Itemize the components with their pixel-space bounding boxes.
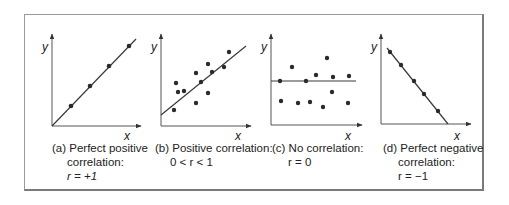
data-point [296,101,300,105]
data-point [279,99,283,103]
panel-d: y x [370,34,471,143]
data-point [194,101,198,105]
data-point [399,63,403,67]
data-point [206,62,210,66]
data-point [172,108,176,112]
caption-title: (a) Perfect positive [52,141,148,155]
caption-title: (c) No correlation: [272,141,363,155]
data-point [69,104,74,109]
data-point [304,79,308,83]
data-point [330,90,334,94]
caption-c: (c) No correlation: r = 0 [272,141,363,169]
caption-r-value: r = 0 [272,155,363,169]
panel-c: y x [260,34,362,143]
regression-line [161,46,246,115]
data-point [331,75,335,79]
data-point [436,109,440,113]
caption-d: (d) Perfect negative correlation: r = −1 [383,141,483,183]
data-point [222,65,226,69]
caption-a: (a) Perfect positive correlation: r = +1 [52,141,148,183]
data-point [88,84,93,89]
data-point [325,56,329,60]
data-point [314,73,318,77]
data-point [278,79,282,83]
panel-a: y x [41,34,141,143]
data-point [176,90,180,94]
data-point [227,50,231,54]
data-point [199,80,203,84]
caption-b: (b) Positive correlation: 0 < r < 1 [155,141,273,169]
caption-title: (d) Perfect negative [383,141,483,155]
caption-title: (b) Positive correlation: [155,141,273,155]
data-point [321,105,325,109]
data-point [346,101,350,105]
caption-r-value: r = −1 [383,169,483,183]
data-point [422,92,426,96]
caption-subtitle: correlation: [52,155,148,169]
data-point [412,79,416,83]
data-point [194,71,198,75]
y-axis-label: y [370,40,378,54]
data-point [388,50,392,54]
caption-r-value: r = +1 [52,169,148,183]
data-point [107,64,112,69]
y-axis-label: y [150,40,158,54]
panel-b: y x [150,34,251,143]
y-axis-label: y [41,40,49,54]
data-point [206,91,210,95]
data-point [182,89,186,93]
y-axis-label: y [260,40,268,54]
data-point [347,74,351,78]
regression-line [52,39,136,126]
data-point [174,81,178,85]
caption-subtitle: correlation: [383,155,483,169]
data-point [210,70,214,74]
data-point [308,100,312,104]
data-point [290,65,294,69]
caption-r-value: 0 < r < 1 [155,155,273,169]
data-point [127,44,132,49]
